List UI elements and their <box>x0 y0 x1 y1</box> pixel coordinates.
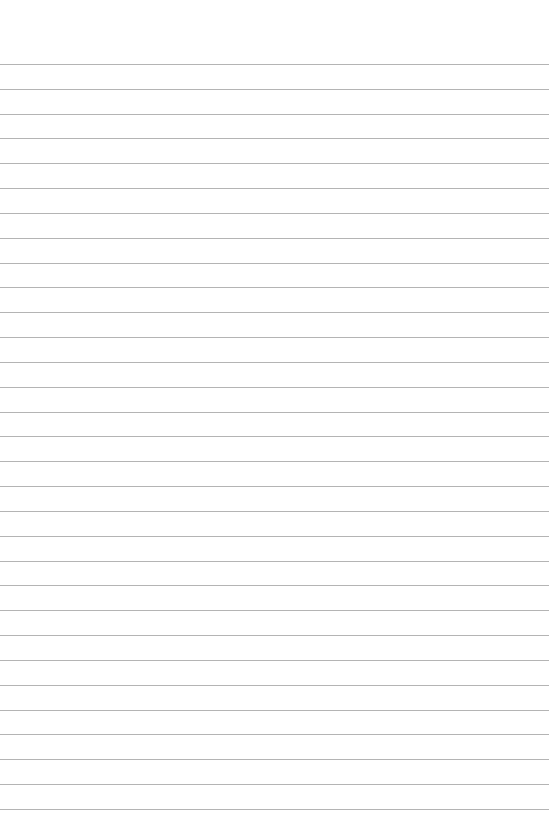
ruled-line <box>0 759 549 760</box>
ruled-line <box>0 461 549 462</box>
ruled-line <box>0 660 549 661</box>
ruled-line <box>0 710 549 711</box>
ruled-line <box>0 312 549 313</box>
ruled-line <box>0 685 549 686</box>
ruled-line <box>0 784 549 785</box>
ruled-line <box>0 511 549 512</box>
ruled-line <box>0 610 549 611</box>
ruled-line <box>0 412 549 413</box>
ruled-line <box>0 138 549 139</box>
ruled-line <box>0 809 549 810</box>
ruled-line <box>0 436 549 437</box>
ruled-line <box>0 536 549 537</box>
lined-paper-page <box>0 0 551 840</box>
ruled-line <box>0 287 549 288</box>
ruled-line <box>0 387 549 388</box>
ruled-line <box>0 734 549 735</box>
ruled-line <box>0 635 549 636</box>
ruled-line <box>0 561 549 562</box>
ruled-line <box>0 64 549 65</box>
ruled-line <box>0 163 549 164</box>
ruled-line <box>0 337 549 338</box>
ruled-line <box>0 89 549 90</box>
ruled-line <box>0 585 549 586</box>
ruled-line <box>0 213 549 214</box>
ruled-line <box>0 238 549 239</box>
ruled-line <box>0 188 549 189</box>
ruled-line <box>0 114 549 115</box>
ruled-line <box>0 263 549 264</box>
ruled-line <box>0 486 549 487</box>
ruled-line <box>0 362 549 363</box>
